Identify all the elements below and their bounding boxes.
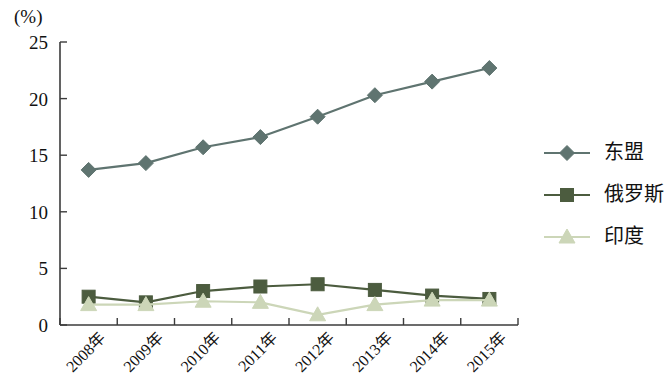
diamond-marker-icon [253,130,268,145]
line-chart-canvas: 0510152025 2008年2009年2010年2011年2012年2013… [0,0,672,390]
legend-item-label: 印度 [604,225,644,247]
x-axis-tick-label: 2011年 [235,329,281,375]
diamond-marker-icon [310,109,325,124]
x-axis-tick-label: 2008年 [63,329,109,375]
square-marker-icon [561,189,574,202]
square-marker-icon [311,278,324,291]
legend-item-3[interactable]: 印度 [544,225,644,247]
axis-lines [60,42,518,325]
legend-item-label: 东盟 [604,141,644,163]
data-series-layer [81,61,498,321]
y-axis-tick-label: 5 [39,258,49,279]
x-axis-tick-group: 2008年2009年2010年2011年2012年2013年2014年2015年 [60,318,518,375]
square-marker-icon [254,280,267,293]
x-axis-tick-label: 2012年 [292,329,338,375]
y-axis-tick-group: 0510152025 [29,32,67,336]
chart-legend: 东盟俄罗斯印度 [544,141,664,247]
x-axis-tick-label: 2014年 [406,329,452,375]
series-1 [81,61,497,178]
diamond-marker-icon [367,88,382,103]
x-axis-tick-label: 2010年 [177,329,223,375]
legend-item-1[interactable]: 东盟 [544,141,644,163]
x-axis-tick-label: 2013年 [349,329,395,375]
y-axis-tick-label: 15 [29,145,48,166]
diamond-marker-icon [425,74,440,89]
square-marker-icon [368,283,381,296]
x-axis-tick-label: 2015年 [464,329,510,375]
chart-figure: (%) 0510152025 2008年2009年2010年2011年2012年… [0,0,672,390]
diamond-marker-icon [196,140,211,155]
diamond-marker-icon [560,146,575,161]
diamond-marker-icon [81,162,96,177]
diamond-marker-icon [138,156,153,171]
x-axis-tick-label: 2009年 [120,329,166,375]
y-axis-tick-label: 20 [29,89,48,110]
legend-item-label: 俄罗斯 [604,183,664,205]
diamond-marker-icon [482,61,497,76]
y-axis-tick-label: 10 [29,202,48,223]
y-axis-tick-label: 0 [39,315,49,336]
legend-item-2[interactable]: 俄罗斯 [544,183,664,205]
y-axis-tick-label: 25 [29,32,48,53]
